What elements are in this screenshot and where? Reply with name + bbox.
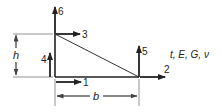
dof-5-label: 5	[142, 46, 148, 57]
dof-3-label: 3	[82, 29, 88, 40]
dof-2-label: 2	[164, 64, 170, 75]
triangle-shape	[55, 34, 139, 77]
material-properties-label: t, E, G, ν	[170, 49, 209, 60]
dof-6-label: 6	[58, 6, 64, 17]
height-label: h	[13, 49, 19, 61]
height-dimension: h	[10, 35, 22, 75]
dof-1-label: 1	[83, 77, 89, 88]
base-label: b	[93, 90, 99, 102]
dof-4-label: 4	[41, 54, 47, 65]
triangle-element-diagram: h b 6 3 4 1 5 2 t, E, G, ν	[0, 0, 222, 112]
base-dimension: b	[57, 89, 137, 103]
